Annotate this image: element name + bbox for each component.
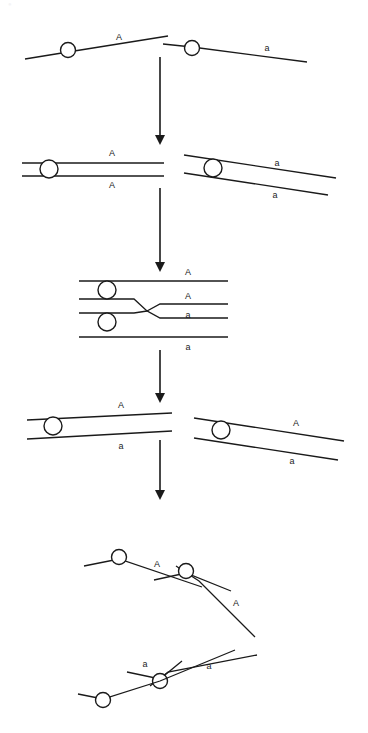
arrow-head-icon: [155, 490, 165, 500]
crossing-over-diagram: Crossing over between homologous chromos…: [0, 0, 368, 733]
allele-label-A: A: [154, 559, 160, 569]
stage-2-replicated-sister-chromatids: AAaa: [22, 148, 336, 200]
chromatid-strand-1: [194, 438, 338, 460]
arrow-head-icon: [155, 393, 165, 403]
arrow-4: [155, 440, 165, 500]
chrom-5-lower-recombinant: a: [127, 655, 257, 689]
chrom-1-left: A: [25, 32, 168, 59]
watermark-mark: ●: [8, 1, 16, 9]
allele-label-A: A: [293, 418, 299, 428]
chrom-2-left: AA: [22, 148, 164, 190]
centromere-0: [44, 417, 62, 435]
centromere-0: [204, 159, 222, 177]
figure-root: ● Crossing over between homologous chrom…: [0, 0, 368, 733]
centromere-0: [61, 43, 76, 58]
watermark-text: [103, 2, 281, 8]
chrom-3-bivalent: AAaa: [79, 267, 228, 352]
allele-label-a: a: [289, 456, 294, 466]
centromere-0: [179, 564, 194, 579]
allele-label-a: a: [264, 43, 269, 53]
allele-label-a: a: [272, 190, 277, 200]
arrow-head-icon: [155, 262, 165, 272]
centromere-0: [96, 693, 111, 708]
arrows-layer: [155, 57, 165, 500]
allele-label-a: a: [206, 661, 211, 671]
chrom-5-upper-recombinant: A: [154, 564, 255, 638]
centromere-1: [98, 313, 116, 331]
chromatid-strand-0: [25, 36, 168, 59]
centromere-0: [112, 550, 127, 565]
allele-label-A: A: [109, 180, 115, 190]
stage-1-homologous-chromosomes: Aa: [25, 32, 307, 62]
chromatid-strand-1: [184, 173, 328, 195]
arrow-head-icon: [155, 135, 165, 145]
centromere-0: [98, 281, 116, 299]
chrom-1-right: a: [163, 41, 307, 63]
allele-label-a: a: [274, 158, 279, 168]
stage-5-separated-chromatids: AAaa: [78, 550, 257, 708]
centromere-0: [40, 160, 58, 178]
allele-label-a: a: [185, 342, 190, 352]
allele-label-A: A: [116, 32, 122, 42]
chrom-4-right: Aa: [194, 418, 344, 466]
allele-label-a: a: [142, 659, 147, 669]
arrow-2: [155, 188, 165, 272]
allele-label-a: a: [185, 310, 190, 320]
stage-3-synapsis-crossing-over: AAaa: [79, 267, 228, 352]
chrom-2-right: aa: [184, 155, 336, 200]
allele-label-A: A: [185, 291, 191, 301]
allele-label-A: A: [109, 148, 115, 158]
centromere-0: [212, 421, 230, 439]
stage-4-recombinant-chromosomes: AaAa: [27, 400, 344, 466]
chromatid-strand-1: [79, 299, 228, 311]
stages-layer: AaAAaaAAaaAaAaAAaa: [22, 32, 344, 707]
arrow-1: [155, 57, 165, 145]
allele-label-A: A: [233, 598, 239, 608]
arrow-3: [155, 350, 165, 403]
allele-label-A: A: [185, 267, 191, 277]
allele-label-A: A: [118, 400, 124, 410]
chrom-4-left: Aa: [27, 400, 172, 451]
centromere-0: [185, 41, 200, 56]
allele-label-a: a: [118, 441, 123, 451]
